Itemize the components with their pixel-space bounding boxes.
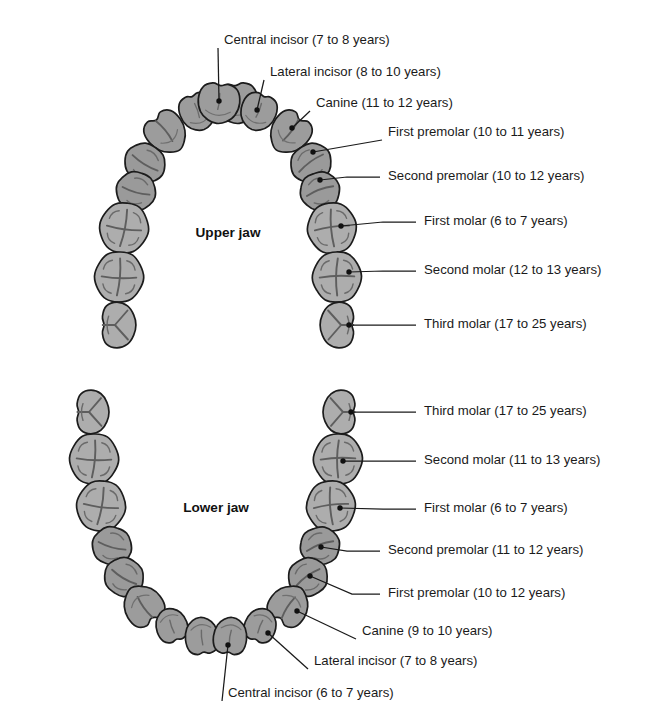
lower-label-second-molar: Second molar (11 to 13 years) [424,452,600,467]
lower-jaw-title: Lower jaw [183,500,249,515]
tooth-l-l-m3 [77,390,109,434]
upper-label-central-incisor: Central incisor (7 to 8 years) [224,32,390,47]
upper-label-canine: Canine (11 to 12 years) [316,95,453,110]
tooth-l-l-m1 [76,481,125,531]
tooth-l-r-central [213,617,247,654]
upper-label-first-molar: First molar (6 to 7 years) [424,213,568,228]
lower-label-first-premolar: First premolar (10 to 12 years) [388,585,565,600]
arch-illustration: Upper jaw Lower jaw Central incisor (7 t… [0,0,650,717]
lower-label-second-premolar: Second premolar (11 to 12 years) [388,542,583,557]
upper-label-lateral-incisor: Lateral incisor (8 to 10 years) [270,64,441,79]
upper-label-second-molar: Second molar (12 to 13 years) [424,262,601,277]
tooth-u-r-m2 [312,252,361,302]
upper-jaw-title: Upper jaw [196,225,261,240]
lower-leader-dot-third-molar [348,409,353,414]
tooth-u-l-m2 [94,252,143,302]
lower-label-lateral-incisor: Lateral incisor (7 to 8 years) [314,653,477,668]
dental-eruption-diagram: Upper jaw Lower jaw Central incisor (7 t… [0,0,650,717]
lower-leader-dot-second-molar [340,458,345,463]
upper-label-third-molar: Third molar (17 to 25 years) [424,316,587,331]
tooth-l-l-m2 [69,434,118,484]
lower-label-first-molar: First molar (6 to 7 years) [424,500,568,515]
tooth-u-l-m3 [102,302,136,348]
lower-label-third-molar: Third molar (17 to 25 years) [424,403,587,418]
lower-leader-dot-second-premolar [318,544,323,549]
lower-leader-dot-canine [294,608,299,613]
upper-leader-dot-second-premolar [317,177,322,182]
upper-leader-dot-second-molar [346,269,351,274]
upper-leader-dot-canine [289,125,294,130]
upper-leader-dot-first-molar [338,223,343,228]
lower-leader-dot-central-incisor [225,642,230,647]
tooth-l-r-m2 [313,434,362,484]
upper-leader-dot-third-molar [346,322,351,327]
tooth-u-r-m1 [307,203,356,254]
upper-leader-dot-first-premolar [310,149,315,154]
upper-label-first-premolar: First premolar (10 to 11 years) [388,124,564,139]
upper-leader-dot-lateral-incisor [254,107,259,112]
tooth-l-r-m1 [306,481,355,532]
upper-leader-dot-central-incisor [216,98,221,103]
lower-label-canine: Canine (9 to 10 years) [362,623,492,638]
lower-leader-dot-first-premolar [307,573,312,578]
lower-leader-dot-lateral-incisor [265,630,270,635]
tooth-u-l-m1 [99,203,148,254]
lower-leader-dot-first-molar [337,505,342,510]
upper-label-second-premolar: Second premolar (10 to 12 years) [388,168,584,183]
lower-label-central-incisor: Central incisor (6 to 7 years) [228,685,394,700]
